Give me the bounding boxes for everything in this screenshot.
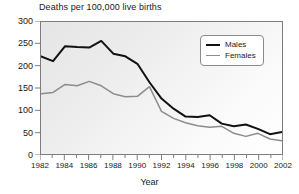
- x-tick-label: 1982: [31, 161, 49, 171]
- x-tick-label: 1984: [55, 161, 73, 171]
- legend-entry-males: Males: [206, 39, 256, 50]
- y-tick-label: 50: [0, 129, 33, 138]
- x-axis-tick-labels: 1982198419861988199019921994199619982000…: [0, 161, 299, 173]
- x-tick-label: 1988: [104, 161, 122, 171]
- y-tick-label: 300: [0, 17, 33, 26]
- y-tick-label: 250: [0, 39, 33, 48]
- x-tick-label: 1994: [177, 161, 195, 171]
- chart-legend: Males Females: [200, 35, 264, 66]
- line-chart-figure: Deaths per 100,000 live births 050100150…: [0, 0, 299, 194]
- x-tick-label: 1986: [80, 161, 98, 171]
- legend-line-males-icon: [206, 44, 220, 46]
- x-tick-label: 1998: [225, 161, 243, 171]
- chart-title: Deaths per 100,000 live births: [39, 2, 162, 13]
- y-axis-tick-labels: 050100150200250300: [0, 21, 33, 155]
- x-tick-label: 2002: [274, 161, 292, 171]
- x-tick-label: 1992: [153, 161, 171, 171]
- y-tick-label: 150: [0, 84, 33, 93]
- legend-entry-females: Females: [206, 50, 256, 61]
- y-tick-label: 100: [0, 106, 33, 115]
- legend-label-females: Females: [225, 51, 256, 60]
- y-tick-label: 0: [0, 151, 33, 160]
- x-tick-label: 2000: [250, 161, 268, 171]
- x-tick-label: 1990: [128, 161, 146, 171]
- x-tick-label: 1996: [201, 161, 219, 171]
- series-line-females: [41, 81, 282, 140]
- y-tick-label: 200: [0, 62, 33, 71]
- legend-line-females-icon: [206, 55, 220, 56]
- x-axis-title: Year: [0, 177, 299, 188]
- legend-label-males: Males: [225, 40, 246, 49]
